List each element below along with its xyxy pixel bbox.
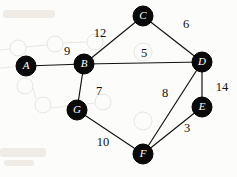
edge-weight-G-F: 10 — [97, 135, 110, 149]
node-label-E: E — [198, 100, 206, 112]
edge-G-F — [77, 110, 143, 154]
edge-weight-D-F: 8 — [162, 86, 168, 100]
bleed-through-node — [10, 40, 26, 56]
node-label-C: C — [139, 9, 147, 21]
bleed-through-edge — [33, 88, 36, 99]
node-label-F: F — [139, 147, 147, 159]
bleed-through-edge — [63, 42, 87, 43]
bleed-through-node — [47, 36, 63, 52]
node-label-G: G — [73, 103, 81, 115]
bleed-through-edge — [0, 49, 10, 50]
edge-weight-B-D: 5 — [141, 46, 147, 60]
edge-weight-C-D: 6 — [183, 17, 189, 31]
bleed-through-text-smudge — [4, 160, 34, 166]
bleed-through-node — [35, 97, 51, 113]
node-label-A: A — [22, 59, 30, 71]
bleed-through-text-smudge — [3, 10, 55, 18]
bleed-through-text-smudge — [0, 148, 46, 157]
edge-weight-B-C: 12 — [94, 26, 107, 40]
edge-B-D — [84, 62, 202, 64]
node-label-D: D — [197, 55, 206, 67]
edge-weight-B-G: 7 — [96, 84, 102, 98]
bleed-through-node — [17, 78, 33, 94]
node-label-B: B — [81, 57, 88, 69]
bleed-through-edge — [26, 45, 47, 47]
bleed-through-node — [134, 112, 152, 130]
weighted-graph-canvas: 912657108143ABCDEFG — [0, 0, 237, 177]
edge-B-C — [84, 16, 143, 64]
edge-weight-D-E: 14 — [216, 80, 229, 94]
bleed-through-edge — [0, 67, 14, 68]
scanned-graph-diagram: 912657108143ABCDEFG — [0, 0, 237, 177]
edge-E-F — [143, 107, 202, 154]
edge-weight-E-F: 3 — [184, 121, 190, 135]
edge-weight-A-B: 9 — [64, 44, 70, 58]
